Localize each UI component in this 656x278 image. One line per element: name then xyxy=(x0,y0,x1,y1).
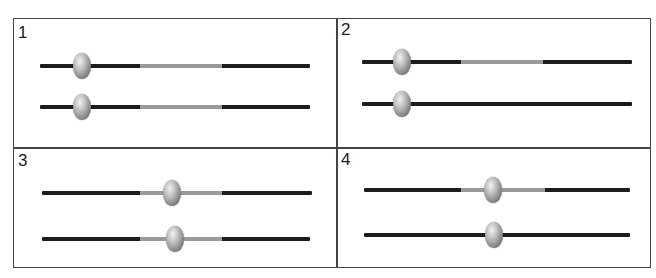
slider-range-1-2 xyxy=(140,105,222,109)
slider-thumb-3-2[interactable] xyxy=(166,226,184,252)
slider-range-2-1 xyxy=(461,60,543,64)
horizontal-divider xyxy=(13,147,651,149)
panel-label-4: 4 xyxy=(341,151,350,168)
panel-label-3: 3 xyxy=(18,152,27,169)
slider-range-4-1 xyxy=(461,188,545,192)
vertical-divider xyxy=(336,18,338,268)
slider-thumb-4-1[interactable] xyxy=(484,177,502,203)
slider-thumb-2-1[interactable] xyxy=(393,49,411,75)
panel-label-1: 1 xyxy=(18,24,27,41)
slider-thumb-3-1[interactable] xyxy=(163,180,181,206)
slider-range-1-1 xyxy=(140,64,222,68)
slider-thumb-4-2[interactable] xyxy=(485,222,503,248)
panel-grid xyxy=(13,18,651,268)
panel-label-2: 2 xyxy=(341,21,350,38)
slider-thumb-1-2[interactable] xyxy=(73,94,91,120)
slider-range-3-1 xyxy=(140,191,222,195)
slider-thumb-2-2[interactable] xyxy=(393,91,411,117)
slider-thumb-1-1[interactable] xyxy=(73,53,91,79)
